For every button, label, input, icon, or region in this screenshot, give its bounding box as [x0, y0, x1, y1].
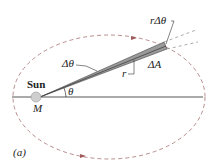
r-delta-theta-leader [166, 21, 174, 44]
delta-a-label: ΔA [147, 58, 161, 70]
orbit-arrow-top [131, 36, 137, 40]
delta-theta-leader [76, 65, 97, 71]
r-delta-theta-label: rΔθ [150, 14, 167, 26]
sun-icon [31, 92, 41, 102]
sun-label: Sun [27, 78, 45, 90]
theta-label: θ [68, 85, 74, 97]
delta-theta-label: Δθ [61, 57, 74, 69]
radius-line [40, 46, 166, 97]
r-label: r [122, 67, 127, 79]
extension-lower [167, 42, 198, 49]
theta-arc [64, 88, 66, 97]
panel-label: (a) [13, 146, 26, 159]
kepler-diagram: Sun M θ Δθ r ΔA rΔθ (a) [0, 0, 218, 167]
mass-label: M [32, 102, 43, 114]
